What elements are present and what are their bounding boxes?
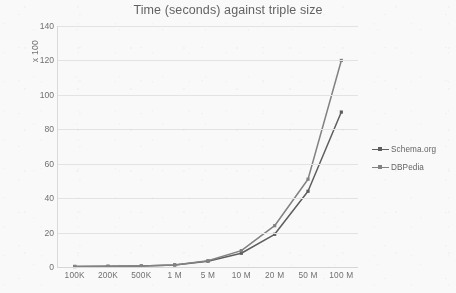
legend-swatch-icon — [372, 145, 389, 154]
data-point-marker — [240, 249, 243, 252]
y-axis-tick: 60 — [20, 159, 54, 169]
y-axis-tick: 140 — [20, 21, 54, 31]
data-point-marker — [306, 190, 309, 193]
y-axis-tick: 120 — [20, 55, 54, 65]
data-point-marker — [340, 110, 343, 113]
gridline — [58, 60, 358, 61]
y-axis-tick: 0 — [20, 262, 54, 272]
chart-figure: Time (seconds) against triple size x 100… — [0, 0, 456, 293]
legend-label: Schema.org — [391, 145, 436, 154]
gridline — [58, 233, 358, 234]
series-plot — [58, 26, 358, 267]
y-axis-tick-labels: 020406080100120140 — [16, 26, 54, 267]
data-point-marker — [306, 178, 309, 181]
legend-item-schema-org[interactable]: Schema.org — [372, 140, 456, 158]
gridline — [58, 164, 358, 165]
y-axis-tick: 100 — [20, 90, 54, 100]
y-axis-tick: 40 — [20, 193, 54, 203]
data-point-marker — [206, 259, 209, 262]
plot-area — [58, 26, 358, 267]
chart-legend: Schema.orgDBPedia — [372, 140, 456, 176]
gridline — [58, 95, 358, 96]
x-axis-tick-labels: 100K200K500K1 M5 M10 M20 M50 M100 M — [58, 270, 358, 284]
data-point-marker — [273, 224, 276, 227]
gridline — [58, 198, 358, 199]
x-axis-tick: 100 M — [318, 270, 364, 280]
gridline — [58, 267, 358, 268]
gridline — [58, 129, 358, 130]
y-axis-tick: 80 — [20, 124, 54, 134]
chart-title: Time (seconds) against triple size — [0, 3, 456, 17]
gridline — [58, 26, 358, 27]
legend-item-dbpedia[interactable]: DBPedia — [372, 158, 456, 176]
legend-swatch-icon — [372, 163, 389, 172]
y-axis-tick: 20 — [20, 228, 54, 238]
legend-label: DBPedia — [391, 163, 424, 172]
